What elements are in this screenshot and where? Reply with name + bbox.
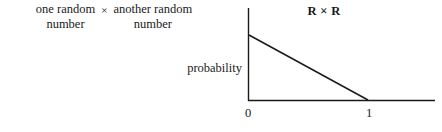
y-axis-label: probability	[168, 61, 242, 76]
multiplication-operator-icon: ×	[101, 2, 107, 18]
probability-chart: R × R probability 0 1	[168, 0, 442, 132]
chart-title: R × R	[284, 4, 364, 19]
diagram-canvas: one random number × another random numbe…	[0, 0, 442, 132]
left-operand-line1: one random	[36, 2, 95, 17]
left-operand-line2: number	[46, 17, 84, 32]
left-operand: one random number	[36, 2, 95, 32]
density-line	[249, 35, 368, 100]
x-tick-label-0: 0	[238, 106, 258, 121]
x-tick-label-1: 1	[359, 106, 379, 121]
right-operand-line2: number	[134, 17, 172, 32]
